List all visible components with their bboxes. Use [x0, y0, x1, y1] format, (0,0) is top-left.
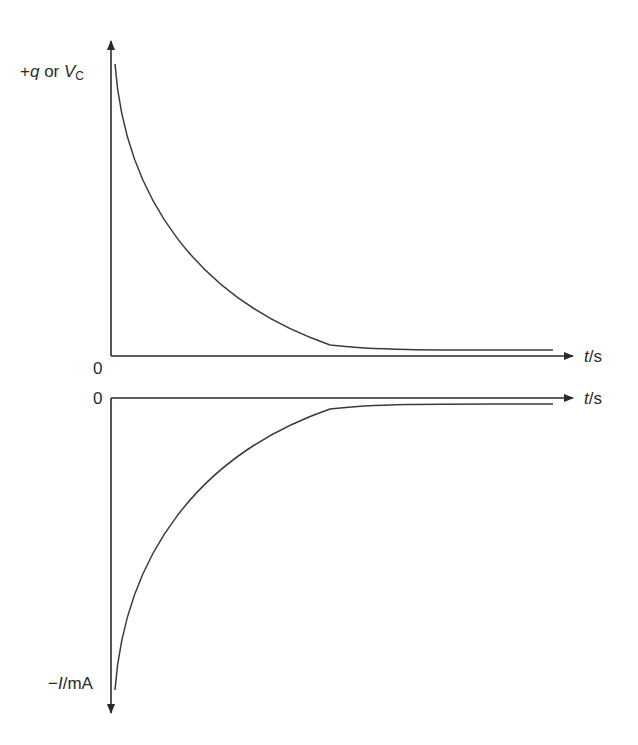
bottom-origin-label: 0 [93, 389, 102, 409]
bottom-y-axis-label: −I/mA [48, 674, 93, 694]
top-x-axis-label: t/s [584, 347, 602, 367]
bottom-current-curve [115, 404, 553, 690]
bottom-x-axis-label: t/s [584, 389, 602, 409]
top-y-axis-label: +q or VC [20, 62, 84, 83]
top-decay-curve [115, 64, 553, 350]
top-origin-label: 0 [93, 359, 102, 379]
